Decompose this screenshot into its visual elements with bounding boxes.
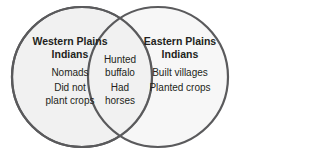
right-item-planted-crops: Planted crops <box>140 81 220 94</box>
overlap-item-hunted-buffalo: Hunted buffalo <box>96 53 144 79</box>
overlap-item-had-horses: Had horses <box>96 81 144 107</box>
right-item-built-villages: Built villages <box>140 66 220 79</box>
right-circle-title: Eastern Plains Indians <box>140 35 220 61</box>
